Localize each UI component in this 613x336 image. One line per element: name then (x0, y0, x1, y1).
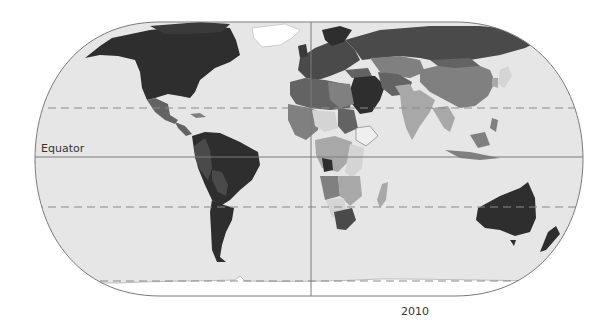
world-map: Equator 2010 (0, 0, 613, 336)
year-label: 2010 (401, 305, 429, 318)
equator-label: Equator (41, 142, 84, 155)
map-svg (0, 0, 613, 336)
